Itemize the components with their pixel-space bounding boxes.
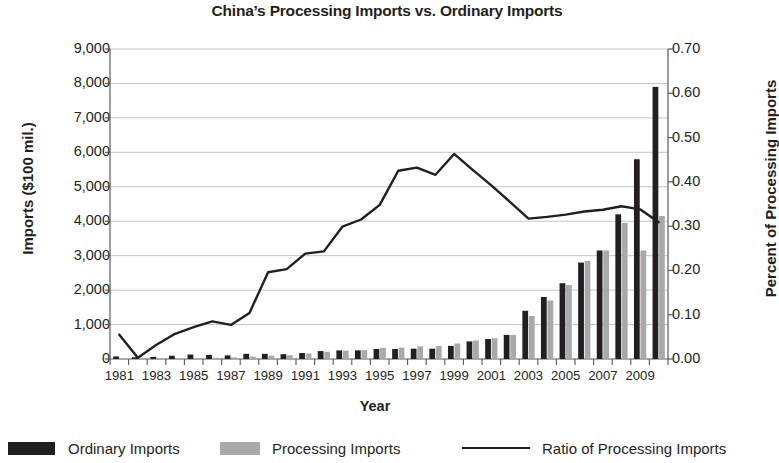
bar-ordinary-imports: [504, 335, 510, 359]
legend-item-ordinary-imports: Ordinary Imports: [8, 440, 180, 457]
bar-ordinary-imports: [243, 354, 249, 359]
bar-processing-imports: [250, 357, 256, 359]
bar-processing-imports: [436, 346, 442, 359]
bar-processing-imports: [473, 340, 479, 359]
bar-ordinary-imports: [336, 350, 342, 359]
bar-ordinary-imports: [169, 356, 175, 359]
bar-processing-imports: [640, 251, 646, 360]
bar-processing-imports: [454, 344, 460, 360]
bar-processing-imports: [603, 251, 609, 360]
bar-processing-imports: [157, 358, 163, 359]
bar-processing-imports: [268, 356, 274, 359]
bar-ordinary-imports: [113, 356, 119, 359]
bar-processing-imports: [120, 358, 126, 359]
bar-processing-imports: [213, 358, 219, 359]
bar-processing-imports: [566, 285, 572, 359]
bar-ordinary-imports: [578, 263, 584, 359]
bar-ordinary-imports: [262, 354, 268, 359]
bar-ordinary-imports: [522, 311, 528, 359]
bar-ordinary-imports: [448, 346, 454, 359]
bar-ordinary-imports: [299, 353, 305, 359]
bar-ordinary-imports: [634, 159, 640, 359]
bar-ordinary-imports: [597, 251, 603, 360]
bar-processing-imports: [343, 351, 349, 359]
bar-ordinary-imports: [318, 351, 324, 359]
bar-processing-imports: [622, 223, 628, 359]
bar-ordinary-imports: [467, 341, 473, 359]
bar-processing-imports: [194, 358, 200, 359]
bar-processing-imports: [547, 300, 553, 359]
bar-processing-imports: [306, 353, 312, 359]
bar-ordinary-imports: [615, 214, 621, 359]
bar-ordinary-imports: [374, 349, 380, 359]
legend-label-ratio: Ratio of Processing Imports: [542, 440, 726, 457]
bar-ordinary-imports: [411, 349, 417, 359]
legend-label-processing: Processing Imports: [272, 440, 400, 457]
bar-processing-imports: [659, 216, 665, 359]
chart-legend: Ordinary Imports Processing Imports Rati…: [0, 437, 774, 459]
bar-ordinary-imports: [560, 283, 566, 359]
bar-processing-imports: [399, 348, 405, 359]
bar-ordinary-imports: [429, 349, 435, 359]
legend-item-processing-imports: Processing Imports: [220, 440, 400, 457]
bar-processing-imports: [175, 358, 181, 359]
bar-ordinary-imports: [206, 355, 212, 359]
bar-processing-imports: [138, 358, 144, 359]
bar-processing-imports: [417, 346, 423, 359]
bar-ordinary-imports: [281, 354, 287, 359]
bar-ordinary-imports: [150, 357, 156, 359]
bar-ordinary-imports: [653, 87, 659, 359]
line-swatch-icon: [462, 447, 530, 449]
dark-bar-swatch-icon: [8, 442, 55, 455]
bar-ordinary-imports: [355, 350, 361, 359]
legend-item-ratio: Ratio of Processing Imports: [462, 440, 726, 457]
legend-label-ordinary: Ordinary Imports: [68, 440, 180, 457]
bar-processing-imports: [585, 261, 591, 359]
bar-processing-imports: [324, 352, 330, 359]
bar-ordinary-imports: [225, 355, 231, 359]
bar-processing-imports: [510, 335, 516, 359]
bar-ordinary-imports: [485, 339, 491, 359]
bar-processing-imports: [492, 338, 498, 359]
bar-processing-imports: [380, 348, 386, 359]
bar-ordinary-imports: [541, 297, 547, 359]
bar-processing-imports: [529, 316, 535, 359]
bar-ordinary-imports: [188, 355, 194, 359]
bar-processing-imports: [231, 357, 237, 359]
light-bar-swatch-icon: [220, 442, 260, 455]
bar-ordinary-imports: [392, 349, 398, 359]
bar-processing-imports: [361, 350, 367, 359]
bar-processing-imports: [287, 355, 293, 359]
